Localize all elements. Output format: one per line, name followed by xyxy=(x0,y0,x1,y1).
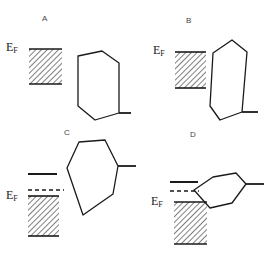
energy-level-diagram-figure xyxy=(0,0,268,256)
panel-d-fermi-box xyxy=(174,202,207,244)
fermi-label-d-subscript: F xyxy=(158,200,162,209)
fermi-label-a: EF xyxy=(6,40,18,55)
panel-a xyxy=(29,49,131,120)
panel-label-c: C xyxy=(64,128,70,137)
fermi-label-c: EF xyxy=(6,188,18,203)
panel-b-band-polygon xyxy=(210,40,247,120)
fermi-label-b-subscript: F xyxy=(160,49,164,58)
panel-b xyxy=(175,40,258,120)
panel-c-fermi-box-group xyxy=(28,196,59,236)
panel-a-fermi-box xyxy=(29,49,62,84)
panel-a-band-polygon xyxy=(78,51,119,120)
panel-label-a: A xyxy=(42,14,48,23)
panel-label-d: D xyxy=(190,130,196,139)
panel-label-b: B xyxy=(186,16,192,25)
fermi-label-b: EF xyxy=(153,43,165,58)
fermi-label-c-subscript: F xyxy=(13,194,17,203)
panel-d xyxy=(170,173,264,244)
panel-c-band-polygon xyxy=(67,140,118,215)
panel-d-fermi-box-group xyxy=(174,202,207,244)
fermi-label-a-subscript: F xyxy=(13,46,17,55)
panel-a-fermi-box-group xyxy=(29,49,62,84)
fermi-label-d: EF xyxy=(151,194,163,209)
panel-b-fermi-box xyxy=(175,52,206,88)
panel-c xyxy=(28,140,136,236)
panel-c-fermi-box xyxy=(28,196,59,236)
panel-b-fermi-box-group xyxy=(175,52,206,88)
